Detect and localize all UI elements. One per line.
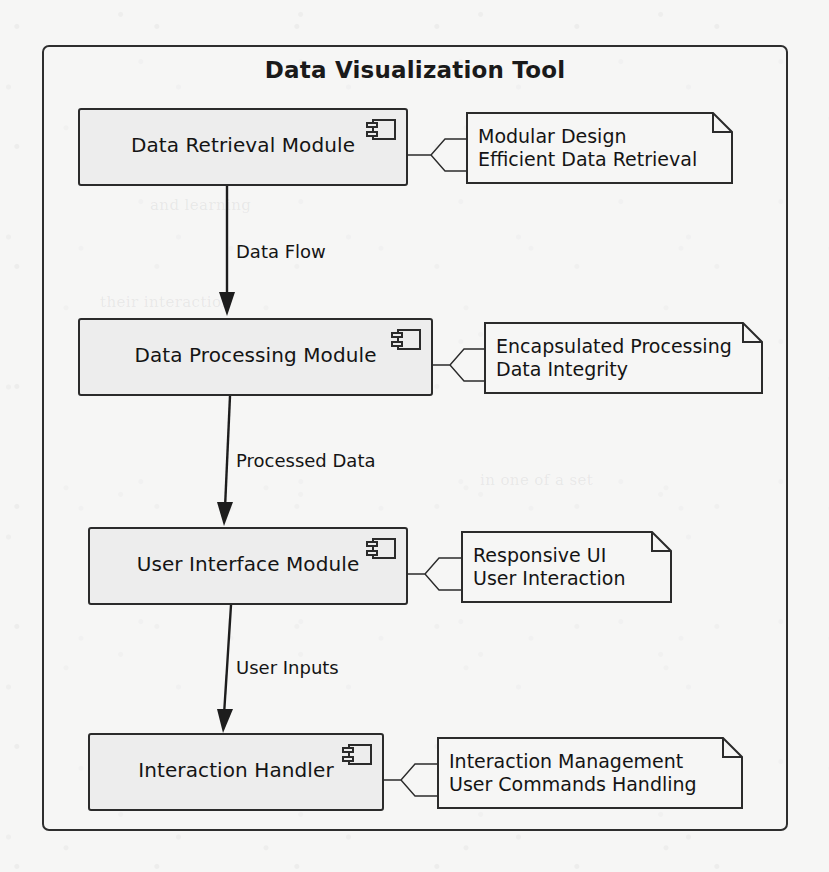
component-icon (391, 329, 421, 350)
note-line: User Commands Handling (449, 773, 743, 796)
flow-label-user-inputs: User Inputs (236, 657, 339, 678)
component-data-processing-module[interactable]: Data Processing Module (78, 318, 433, 396)
note-data-processing: Encapsulated Processing Data Integrity (484, 322, 763, 394)
note-line: Modular Design (478, 125, 733, 148)
component-label: Data Processing Module (134, 343, 376, 371)
component-data-retrieval-module[interactable]: Data Retrieval Module (78, 108, 408, 186)
component-icon (342, 744, 372, 765)
note-line: User Interaction (473, 567, 672, 590)
component-user-interface-module[interactable]: User Interface Module (88, 527, 408, 605)
note-line: Efficient Data Retrieval (478, 148, 733, 171)
note-line: Encapsulated Processing (496, 335, 763, 358)
diagram-canvas: and learning their interaction in one of… (0, 0, 829, 872)
note-user-interface: Responsive UI User Interaction (461, 531, 672, 603)
note-line: Data Integrity (496, 358, 763, 381)
note-line: Responsive UI (473, 544, 672, 567)
note-data-retrieval: Modular Design Efficient Data Retrieval (466, 112, 733, 184)
flow-label-processed-data: Processed Data (236, 450, 375, 471)
component-label: Interaction Handler (138, 758, 334, 786)
component-label: Data Retrieval Module (131, 133, 355, 161)
component-icon (366, 119, 396, 140)
note-line: Interaction Management (449, 750, 743, 773)
flow-label-data-flow: Data Flow (236, 241, 326, 262)
component-interaction-handler[interactable]: Interaction Handler (88, 733, 384, 811)
component-icon (366, 538, 396, 559)
note-interaction-handler: Interaction Management User Commands Han… (437, 737, 743, 809)
page-title: Data Visualization Tool (44, 57, 786, 83)
component-label: User Interface Module (137, 552, 360, 580)
